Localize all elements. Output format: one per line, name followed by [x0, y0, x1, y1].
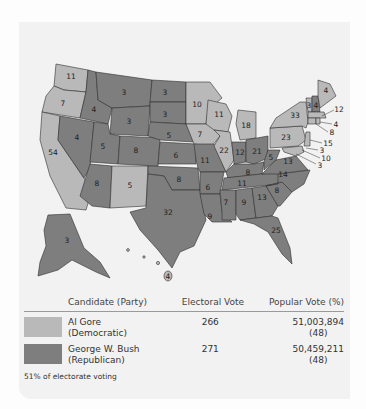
label-or: 7: [61, 99, 66, 108]
state-hi-island: [156, 261, 159, 264]
popular-cell: 51,003,894 (48): [252, 317, 344, 339]
label-nj: 15: [323, 139, 333, 148]
label-oh: 21: [252, 147, 262, 156]
label-ok: 8: [177, 175, 182, 184]
header-candidate: Candidate (Party): [24, 297, 170, 307]
label-ks: 6: [174, 151, 179, 160]
candidate-name: George W. Bush: [68, 344, 140, 354]
label-dc: 3: [318, 161, 323, 170]
state-ma: [308, 112, 326, 118]
label-ms: 7: [224, 198, 229, 207]
legend-header: Candidate (Party) Electoral Vote Popular…: [24, 297, 344, 312]
state-nj: [304, 132, 310, 146]
candidate-party: (Democratic): [68, 328, 127, 338]
label-ca: 54: [48, 148, 58, 157]
popular-cell: 50,459,211 (48): [252, 344, 344, 366]
header-popular: Popular Vote (%): [256, 297, 344, 307]
label-sd: 3: [163, 110, 168, 119]
label-sc: 8: [275, 186, 280, 195]
label-ma: 12: [334, 105, 344, 114]
label-mn: 10: [192, 100, 202, 109]
label-ia: 7: [198, 130, 203, 139]
label-ut: 5: [101, 142, 106, 151]
label-ga: 13: [257, 193, 267, 202]
state-ri: [316, 118, 320, 124]
label-in: 12: [235, 148, 245, 157]
candidate-cell: Al Gore (Democratic): [68, 317, 168, 339]
header-electoral: Electoral Vote: [170, 297, 256, 307]
label-fl: 25: [271, 226, 281, 235]
candidate-cell: George W. Bush (Republican): [68, 344, 168, 366]
turnout-footnote: 51% of electorate voting: [24, 372, 344, 381]
state-hi-island: [143, 256, 145, 258]
electoral-votes: 266: [168, 317, 252, 328]
label-wa: 11: [66, 72, 76, 81]
label-az: 8: [95, 179, 100, 188]
state-ny: [270, 102, 308, 128]
label-tx: 32: [163, 208, 173, 217]
candidate-name: Al Gore: [68, 317, 101, 327]
state-nd: [150, 80, 186, 102]
label-tn: 11: [237, 179, 247, 188]
label-wi: 11: [214, 110, 224, 119]
state-hi-island: [127, 249, 130, 252]
electoral-map: 11 7 54 4 4 3 3 5 8 8 5 3 3 5 6 8 32 10 …: [0, 0, 366, 300]
democratic-swatch: [24, 317, 62, 337]
label-nv: 4: [75, 133, 80, 142]
label-mi: 18: [241, 121, 251, 130]
label-mt: 3: [122, 88, 127, 97]
label-wv: 5: [269, 153, 274, 162]
label-nm: 5: [128, 181, 133, 190]
label-al: 9: [242, 198, 247, 207]
label-va: 13: [283, 157, 293, 166]
electoral-votes: 271: [168, 344, 252, 355]
label-co: 8: [134, 146, 139, 155]
label-md: 10: [321, 154, 331, 163]
label-me: 4: [324, 86, 329, 95]
state-ak: [38, 214, 110, 278]
label-nh: 4: [314, 101, 319, 110]
label-nc: 14: [278, 170, 288, 179]
label-ne: 5: [167, 131, 172, 140]
republican-swatch: [24, 344, 62, 364]
popular-votes: 50,459,211: [292, 344, 344, 354]
label-ny: 33: [290, 111, 300, 120]
state-ct: [308, 118, 316, 124]
legend-table: Candidate (Party) Electoral Vote Popular…: [24, 297, 344, 381]
label-ky: 8: [246, 168, 251, 177]
popular-percent: (48): [309, 328, 327, 338]
label-ct: 8: [330, 128, 335, 137]
legend-row-gore: Al Gore (Democratic) 266 51,003,894 (48): [24, 317, 344, 339]
label-ak: 3: [65, 236, 70, 245]
state-md: [282, 146, 304, 156]
state-co: [118, 136, 160, 166]
state-fl: [240, 216, 292, 264]
popular-votes: 51,003,894: [292, 317, 344, 327]
label-id: 4: [92, 105, 97, 114]
label-nd: 3: [163, 88, 168, 97]
label-mo: 11: [200, 156, 210, 165]
state-sd: [150, 102, 186, 124]
label-ar: 6: [206, 183, 211, 192]
label-vt: 3: [307, 101, 312, 110]
legend-row-bush: George W. Bush (Republican) 271 50,459,2…: [24, 344, 344, 366]
label-hi: 4: [166, 272, 171, 281]
label-pa: 23: [281, 133, 291, 142]
label-wy: 3: [127, 117, 132, 126]
candidate-party: (Republican): [68, 355, 125, 365]
label-il: 22: [219, 146, 229, 155]
label-la: 9: [208, 212, 213, 221]
popular-percent: (48): [309, 355, 327, 365]
